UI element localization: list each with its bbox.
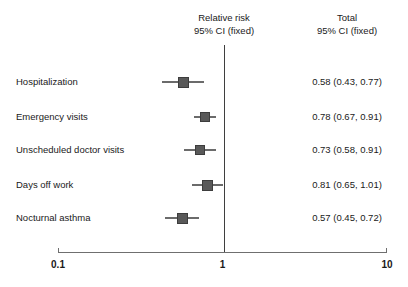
reference-line <box>224 45 225 253</box>
x-axis-tick-label: 1 <box>220 259 226 270</box>
column-header-relative-risk-line2: 95% CI (fixed) <box>164 25 284 38</box>
x-axis-tick-label: 0.1 <box>51 259 65 270</box>
column-header-relative-risk-line1: Relative risk <box>164 12 284 25</box>
axis-cap-right <box>386 248 387 253</box>
point-estimate-marker <box>178 77 189 88</box>
row-label: Nocturnal asthma <box>16 211 90 225</box>
x-axis <box>58 252 387 253</box>
column-header-total-line2: 95% CI (fixed) <box>288 25 406 38</box>
row-label: Hospitalization <box>16 75 78 89</box>
forest-plot: Relative risk 95% CI (fixed) Total 95% C… <box>0 0 408 287</box>
column-header-total-line1: Total <box>288 12 406 25</box>
column-header-relative-risk: Relative risk 95% CI (fixed) <box>164 12 284 37</box>
row-label: Emergency visits <box>16 110 88 124</box>
row-effect-value: 0.58 (0.43, 0.77) <box>288 75 406 89</box>
axis-cap-left <box>58 248 59 253</box>
row-effect-value: 0.81 (0.65, 1.01) <box>288 178 406 192</box>
point-estimate-marker <box>177 213 188 224</box>
point-estimate-marker <box>195 145 205 155</box>
row-effect-value: 0.78 (0.67, 0.91) <box>288 110 406 124</box>
row-label: Days off work <box>16 178 73 192</box>
row-effect-value: 0.57 (0.45, 0.72) <box>288 211 406 225</box>
point-estimate-marker <box>202 180 213 191</box>
row-effect-value: 0.73 (0.58, 0.91) <box>288 143 406 157</box>
x-axis-tick-label: 10 <box>381 259 392 270</box>
column-header-total: Total 95% CI (fixed) <box>288 12 406 37</box>
point-estimate-marker <box>200 112 210 122</box>
row-label: Unscheduled doctor visits <box>16 143 124 157</box>
